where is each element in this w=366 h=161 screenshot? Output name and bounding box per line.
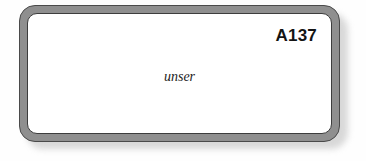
card-surface: A137 unser [28,14,331,133]
scanned-page: A137 unser [0,0,366,161]
card-code-label: A137 [276,27,317,44]
card-frame: A137 unser [19,5,340,142]
card-word-text: unser [28,70,331,84]
card-frame-inner-edge: A137 unser [27,13,332,134]
